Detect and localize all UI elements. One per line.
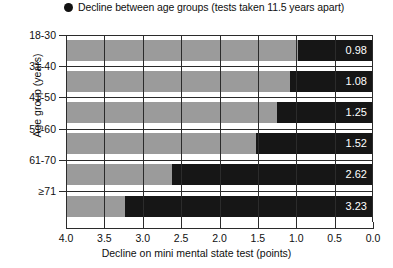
filled-circle-icon: [64, 3, 73, 12]
x-axis-title: Decline on mini mental state test (point…: [0, 247, 393, 259]
legend-label: Decline between age groups (tests taken …: [78, 2, 344, 13]
x-axis-tick-mark: [143, 222, 144, 229]
y-axis-tick-mark: [59, 191, 66, 192]
x-axis-tick-label: 3.0: [123, 232, 163, 244]
y-axis-tick-mark: [59, 35, 66, 36]
y-axis-tick-label: 18-30: [29, 30, 56, 41]
x-axis-tick-label: 0.5: [315, 232, 355, 244]
x-axis-tick-label: 2.0: [200, 232, 240, 244]
chart-legend: Decline between age groups (tests taken …: [64, 2, 344, 13]
x-axis-tick-mark: [181, 222, 182, 229]
x-axis-tick-label: 2.5: [161, 232, 201, 244]
x-axis-tick-mark: [258, 222, 259, 229]
y-axis-tick-mark: [59, 160, 66, 161]
y-axis-tick-mark: [59, 97, 66, 98]
y-axis-tick-label: ≥71: [39, 186, 56, 197]
y-axis-tick-label: 51-60: [29, 124, 56, 135]
category-separator: [66, 97, 373, 98]
category-separator: [66, 66, 373, 67]
chart-figure: Decline between age groups (tests taken …: [0, 0, 393, 268]
y-axis-tick-mark: [59, 129, 66, 130]
x-axis-tick-label: 0.0: [353, 232, 393, 244]
bar-value-label: 0.98: [346, 40, 367, 61]
x-axis-tick-label: 3.5: [84, 232, 124, 244]
bar-decline: [172, 164, 373, 185]
x-axis-tick-mark: [220, 222, 221, 229]
category-separator: [66, 160, 373, 161]
category-separator: [66, 191, 373, 192]
x-axis-tick-label: 1.5: [238, 232, 278, 244]
x-axis-tick-mark: [104, 222, 105, 229]
x-axis-tick-mark: [296, 222, 297, 229]
y-axis-tick-label: 61-70: [29, 155, 56, 166]
category-separator: [66, 35, 373, 36]
bar-value-label: 1.52: [346, 133, 367, 154]
x-axis-tick-label: 4.0: [46, 232, 86, 244]
y-axis-tick-label: 41-50: [29, 92, 56, 103]
bar-value-label: 1.25: [346, 102, 367, 123]
plot-area: 0.981.081.251.522.623.23: [66, 35, 373, 222]
y-axis-tick-mark: [59, 66, 66, 67]
x-axis-tick-mark: [335, 222, 336, 229]
y-axis-tick-label: 31-40: [29, 61, 56, 72]
bar-value-label: 3.23: [346, 196, 367, 217]
bar-value-label: 2.62: [346, 164, 367, 185]
x-axis-tick-mark: [66, 222, 67, 229]
bar-decline: [125, 196, 373, 217]
x-axis-tick-mark: [373, 222, 374, 229]
bar-value-label: 1.08: [346, 71, 367, 92]
category-separator: [66, 129, 373, 130]
x-axis-tick-label: 1.0: [276, 232, 316, 244]
